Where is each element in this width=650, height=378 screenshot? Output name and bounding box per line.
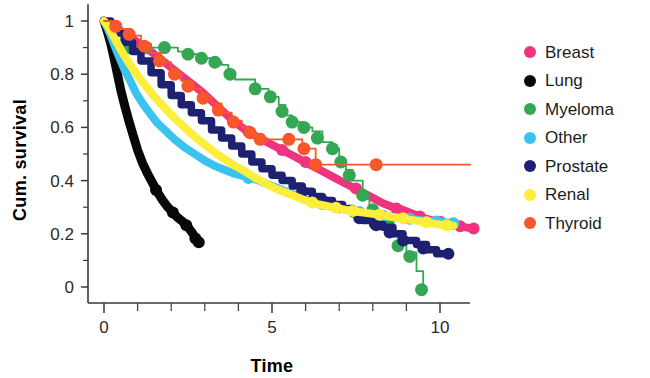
legend: BreastLungMyelomaOtherProstateRenalThyro… xyxy=(524,38,648,238)
y-axis-tick-label: 0.2 xyxy=(50,225,74,244)
legend-swatch-icon xyxy=(524,132,536,144)
censoring-marker xyxy=(356,189,369,202)
legend-item-label: Breast xyxy=(545,44,594,61)
x-axis-tick-label: 5 xyxy=(267,318,276,337)
censoring-marker xyxy=(441,219,453,231)
legend-item-renal[interactable]: Renal xyxy=(524,181,648,210)
censoring-marker xyxy=(254,133,267,146)
y-axis-tick-label: 0.6 xyxy=(50,118,74,137)
legend-swatch-icon xyxy=(524,103,536,115)
censoring-marker xyxy=(347,205,359,217)
legend-swatch-icon xyxy=(524,75,536,87)
x-axis-tick-label: 0 xyxy=(99,318,108,337)
censoring-marker xyxy=(264,90,277,103)
censoring-marker xyxy=(397,234,409,246)
censoring-marker xyxy=(417,242,429,254)
legend-swatch-icon xyxy=(524,189,536,201)
censoring-marker xyxy=(193,236,205,248)
legend-swatch-icon xyxy=(524,46,536,58)
censoring-marker xyxy=(138,40,151,53)
legend-item-label: Prostate xyxy=(545,158,608,175)
y-axis-tick-label: 1 xyxy=(65,12,74,31)
censoring-marker xyxy=(109,20,122,33)
legend-item-lung[interactable]: Lung xyxy=(524,67,648,96)
censoring-marker xyxy=(153,54,166,67)
y-axis-tick-label: 0 xyxy=(65,278,74,297)
series-layer xyxy=(104,20,480,296)
legend-item-label: Other xyxy=(545,129,588,146)
censoring-marker xyxy=(415,283,428,296)
censoring-marker xyxy=(167,207,179,219)
censoring-marker xyxy=(276,105,289,118)
censoring-marker xyxy=(182,48,195,61)
censoring-marker xyxy=(421,216,433,228)
censoring-marker xyxy=(374,209,386,221)
survival-chart-figure: 00.20.40.60.810510 Cum. survivalTime Bre… xyxy=(0,0,650,378)
censoring-marker xyxy=(306,196,318,208)
censoring-marker xyxy=(309,158,322,171)
censoring-marker xyxy=(150,184,162,196)
censoring-marker xyxy=(468,222,480,234)
censoring-marker xyxy=(180,219,192,231)
y-axis-tick-label: 0.8 xyxy=(50,65,74,84)
censoring-marker xyxy=(297,142,310,155)
censoring-marker xyxy=(212,104,225,117)
censoring-marker xyxy=(326,142,339,155)
censoring-marker xyxy=(403,250,416,263)
legend-item-label: Renal xyxy=(545,186,589,203)
y-axis-tick-label: 0.4 xyxy=(50,172,74,191)
censoring-marker xyxy=(297,121,310,134)
legend-item-thyroid[interactable]: Thyroid xyxy=(524,209,648,238)
legend-item-myeloma[interactable]: Myeloma xyxy=(524,95,648,124)
censoring-marker xyxy=(311,132,324,145)
legend-item-label: Thyroid xyxy=(545,215,602,232)
legend-item-label: Lung xyxy=(545,72,583,89)
censoring-marker xyxy=(276,144,288,156)
censoring-marker xyxy=(334,155,347,168)
legend-item-prostate[interactable]: Prostate xyxy=(524,152,648,181)
x-axis-title: Time xyxy=(251,356,294,376)
censoring-marker xyxy=(123,28,136,41)
censoring-marker xyxy=(208,56,221,69)
censoring-marker xyxy=(390,203,402,215)
censoring-marker xyxy=(343,169,356,182)
censoring-marker xyxy=(197,92,210,105)
legend-swatch-icon xyxy=(524,160,536,172)
legend-item-label: Myeloma xyxy=(545,101,614,118)
censoring-marker xyxy=(282,133,295,146)
censoring-marker xyxy=(249,82,262,95)
censoring-marker xyxy=(182,80,195,93)
censoring-marker xyxy=(397,212,409,224)
censoring-marker xyxy=(168,68,181,81)
censoring-marker xyxy=(286,116,299,129)
legend-item-breast[interactable]: Breast xyxy=(524,38,648,67)
censoring-marker xyxy=(370,158,383,171)
censoring-marker xyxy=(224,68,237,81)
censoring-marker xyxy=(370,219,382,231)
censoring-marker xyxy=(384,226,396,238)
legend-swatch-icon xyxy=(524,217,536,229)
censoring-marker xyxy=(442,248,454,260)
censoring-marker xyxy=(330,202,342,214)
y-axis-title: Cum. survival xyxy=(10,99,30,221)
censoring-marker xyxy=(227,116,240,129)
legend-item-other[interactable]: Other xyxy=(524,124,648,153)
x-axis-tick-label: 10 xyxy=(431,318,450,337)
censoring-marker xyxy=(195,52,208,65)
